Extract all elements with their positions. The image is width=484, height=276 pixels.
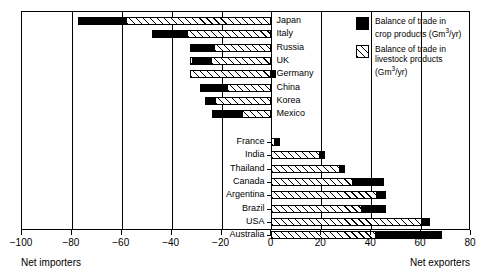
x-tick-label-40: 40	[350, 238, 390, 248]
category-label-india: India	[245, 150, 265, 159]
bar-row	[22, 110, 469, 118]
bar-segment-crop	[340, 165, 345, 173]
category-label-russia: Russia	[276, 43, 304, 52]
legend-livestock-line3: (Gm	[375, 67, 392, 77]
x-tick-60	[420, 230, 421, 235]
x-tick-20	[320, 230, 321, 235]
x-tick-0	[270, 230, 271, 235]
bar-segment-crop	[200, 84, 226, 92]
bar-segment-livestock	[271, 205, 362, 213]
x-tick-40	[370, 230, 371, 235]
bar-segment-crop	[353, 178, 384, 186]
x-tick-label-0: 0	[250, 238, 290, 248]
legend-swatch-crop-icon	[356, 17, 369, 30]
category-label-canada: Canada	[233, 177, 265, 186]
legend-label-crop: Balance of trade in crop products (Gm3/y…	[375, 16, 480, 39]
bar-segment-livestock	[227, 84, 272, 92]
x-tick--20	[221, 230, 222, 235]
bar-segment-crop	[212, 110, 243, 118]
zero-axis-line	[271, 12, 272, 229]
category-label-usa: USA	[246, 217, 265, 226]
bar-segment-crop	[377, 191, 386, 199]
category-label-france: France	[236, 137, 264, 146]
x-tick-label--100: −100	[1, 238, 41, 248]
legend-entry-livestock: Balance of trade in livestock products (…	[356, 44, 480, 77]
legend-swatch-livestock-icon	[356, 45, 369, 58]
category-label-italy: Italy	[276, 29, 293, 38]
axis-caption-net-importers: Net importers	[21, 257, 81, 268]
legend-crop-line1: Balance of trade in	[375, 16, 446, 26]
x-tick-label--20: −20	[201, 238, 241, 248]
axis-caption-net-exporters: Net exporters	[410, 257, 470, 268]
bar-segment-crop	[320, 151, 325, 159]
bar-segment-crop	[205, 97, 215, 105]
trade-balance-chart: JapanItalyRussiaUKGermanyChinaKoreaMexic…	[0, 0, 484, 276]
category-label-mexico: Mexico	[276, 109, 305, 118]
bar-segment-crop	[152, 30, 187, 38]
x-tick-label-20: 20	[300, 238, 340, 248]
chart-legend: Balance of trade in crop products (Gm3/y…	[356, 16, 480, 82]
legend-label-livestock: Balance of trade in livestock products (…	[375, 44, 480, 77]
bar-segment-livestock	[271, 178, 352, 186]
x-tick-label-80: 80	[450, 238, 484, 248]
category-label-germany: Germany	[276, 69, 313, 78]
x-tick-80	[470, 230, 471, 235]
legend-crop-line2: crop products (Gm	[375, 29, 445, 39]
legend-livestock-line4: /yr)	[395, 67, 407, 77]
bar-segment-livestock	[271, 151, 320, 159]
x-tick--60	[121, 230, 122, 235]
x-tick-label--60: −60	[101, 238, 141, 248]
bar-segment-livestock	[215, 97, 271, 105]
x-tick-label--80: −80	[51, 238, 91, 248]
x-tick--100	[21, 230, 22, 235]
x-tick--80	[71, 230, 72, 235]
x-tick-label-60: 60	[400, 238, 440, 248]
category-label-argentina: Argentina	[226, 190, 265, 199]
bar-segment-livestock	[126, 17, 272, 25]
bar-segment-crop	[78, 17, 125, 25]
category-label-korea: Korea	[276, 96, 300, 105]
legend-entry-crop: Balance of trade in crop products (Gm3/y…	[356, 16, 480, 39]
bar-segment-livestock	[214, 44, 271, 52]
category-label-thailand: Thailand	[230, 164, 265, 173]
bar-segment-crop	[190, 44, 214, 52]
bar-segment-livestock	[271, 218, 422, 226]
category-label-uk: UK	[276, 56, 289, 65]
legend-crop-line3: /yr)	[449, 29, 461, 39]
x-tick-label--40: −40	[151, 238, 191, 248]
category-label-china: China	[276, 83, 300, 92]
bar-segment-livestock	[271, 165, 340, 173]
bar-segment-livestock	[187, 30, 272, 38]
bar-segment-livestock	[271, 191, 377, 199]
bar-segment-crop	[192, 57, 212, 65]
bar-segment-livestock	[190, 70, 271, 78]
bar-row	[22, 97, 469, 105]
category-label-japan: Japan	[276, 16, 301, 25]
legend-livestock-line2: livestock products	[375, 54, 443, 64]
x-tick--40	[171, 230, 172, 235]
bar-segment-crop	[275, 138, 280, 146]
category-label-brazil: Brazil	[242, 204, 265, 213]
legend-livestock-line1: Balance of trade in	[375, 44, 446, 54]
bar-row	[22, 84, 469, 92]
bar-segment-crop	[422, 218, 429, 226]
bar-segment-crop	[362, 205, 386, 213]
